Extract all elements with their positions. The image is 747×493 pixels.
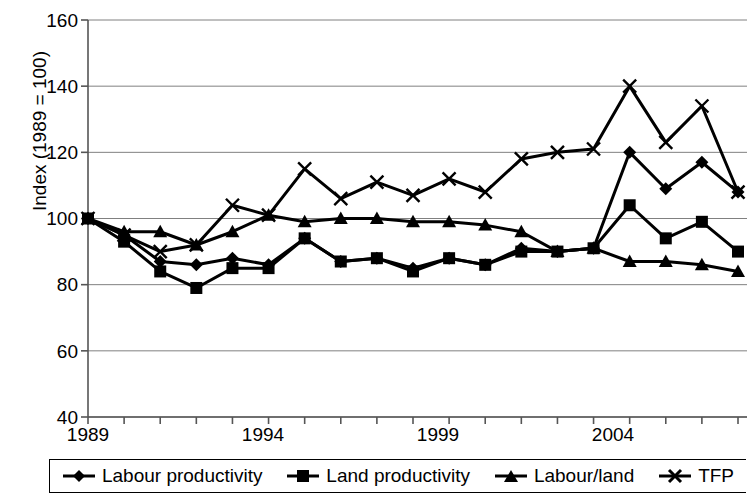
series-labour-productivity [82, 146, 745, 275]
legend-label-tfp: TFP [698, 465, 734, 487]
diamond-marker-icon [62, 468, 96, 484]
legend-label-land-productivity: Land productivity [326, 465, 470, 487]
plot-area [0, 0, 747, 493]
triangle-marker-icon [494, 468, 528, 484]
legend-item-labour-productivity[interactable]: Labour productivity [60, 465, 265, 487]
legend-item-labour-land[interactable]: Labour/land [492, 465, 636, 487]
square-marker-icon [286, 468, 320, 484]
legend-item-tfp[interactable]: TFP [656, 465, 736, 487]
chart-legend: Labour productivity Land productivity La… [49, 459, 746, 493]
gridlines [88, 20, 747, 417]
chart-container: Index (1989 = 100) 160 140 120 100 80 60… [0, 0, 747, 493]
legend-label-labour-productivity: Labour productivity [102, 465, 263, 487]
legend-label-labour-land: Labour/land [534, 465, 634, 487]
cross-marker-icon [658, 468, 692, 484]
legend-item-land-productivity[interactable]: Land productivity [284, 465, 472, 487]
